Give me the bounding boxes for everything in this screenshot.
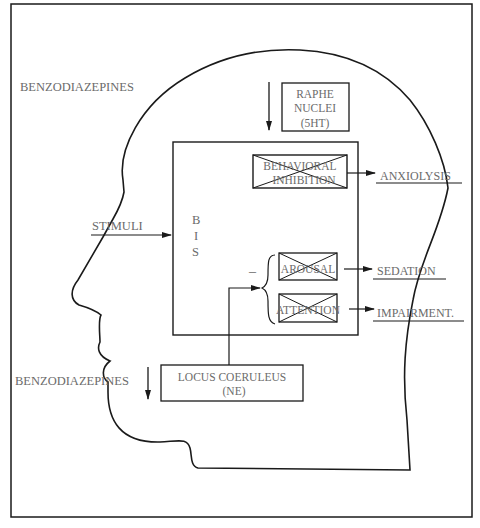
minus-sign: – <box>248 264 257 279</box>
head-outline <box>72 50 448 470</box>
locus-to-brace-arrow <box>229 288 260 365</box>
locus-label-line1: LOCUS COERULEUS <box>178 371 286 383</box>
bis-letter-i: I <box>194 229 198 243</box>
benzodiazepines-top-label: BENZODIAZEPINES <box>20 80 134 94</box>
raphe-label-line1: RAPHE <box>296 88 334 100</box>
raphe-label-line2: NUCLEI <box>294 102 336 114</box>
stimuli-label: STIMULI <box>92 219 143 233</box>
bis-letter-s: S <box>192 245 199 259</box>
locus-label-line2: (NE) <box>223 385 246 398</box>
behavioral-label-line1: BEHAVIORAL <box>263 160 336 172</box>
attention-label: ATTENTION <box>276 304 341 316</box>
behavioral-label-line2: INHIBITION <box>272 174 336 186</box>
raphe-label-line3: (5HT) <box>301 117 330 130</box>
diagram-canvas: – BENZODIAZEPINES BENZODIAZEPINES STIMUL… <box>0 0 480 528</box>
bis-letter-b: B <box>192 213 200 227</box>
sedation-label: SEDATION <box>377 264 436 278</box>
benzodiazepines-bottom-label: BENZODIAZEPINES <box>15 374 129 388</box>
brace <box>262 255 275 324</box>
impairment-label: IMPAIRMENT. <box>377 306 454 320</box>
anxiolysis-label: ANXIOLYSIS <box>380 169 451 183</box>
arousal-label: AROUSAL <box>281 263 335 275</box>
